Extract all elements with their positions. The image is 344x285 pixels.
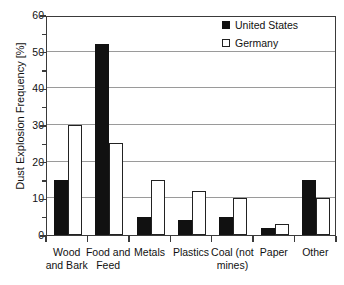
bar-united-states [302,180,316,235]
filled-square-icon [222,21,230,29]
x-axis-tick [170,236,171,242]
hollow-square-icon [222,39,230,47]
bar-germany [68,125,82,235]
bar-germany [151,180,165,235]
x-axis-tick [45,236,46,242]
bar-united-states [137,217,151,235]
x-axis-tick [128,236,129,242]
bar-united-states [219,217,233,235]
y-axis-tick-label: 60 [8,9,44,21]
x-axis-tick [335,236,336,242]
y-axis-tick-label: 20 [8,156,44,168]
bar-group [130,17,171,235]
bar-germany [109,143,123,235]
bar-germany [275,224,289,235]
x-axis-tick [252,236,253,242]
legend-item: United States [222,18,298,31]
bar-united-states [54,180,68,235]
y-axis-tick-label: 30 [8,119,44,131]
bar-germany [316,198,330,235]
bar-group [47,17,88,235]
bar-group [88,17,129,235]
y-axis-tick-label: 10 [8,192,44,204]
x-axis-tick [87,236,88,242]
chart-legend: United StatesGermany [222,18,298,54]
x-axis-category-label: Other [289,246,342,259]
bar-united-states [261,228,275,235]
bar-group [171,17,212,235]
bar-germany [233,198,247,235]
legend-item-label: United States [235,19,298,31]
bar-united-states [95,44,109,235]
bar-united-states [178,220,192,235]
legend-item-label: Germany [235,37,278,49]
x-axis-tick [294,236,295,242]
x-axis-tick [211,236,212,242]
y-axis-tick-label: 50 [8,46,44,58]
dust-explosion-frequency-chart: Dust Explosion Frequency [%] 01020304050… [0,0,344,285]
y-axis-tick-label: 0 [8,229,44,241]
legend-item: Germany [222,36,298,49]
y-axis-tick-label: 40 [8,82,44,94]
bar-group [296,17,336,235]
bar-germany [192,191,206,235]
